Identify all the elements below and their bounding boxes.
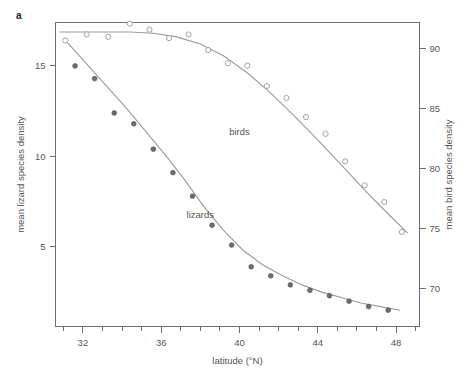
x-axis-tick-label: 32 [78, 337, 89, 348]
x-axis-tick-label: 48 [391, 337, 402, 348]
data-point-birds [106, 34, 111, 39]
data-point-lizards [386, 308, 391, 313]
data-point-lizards [73, 64, 78, 69]
data-point-birds [245, 63, 250, 68]
x-axis-tick-label: 44 [312, 337, 323, 348]
x-axis-tick-label: 36 [156, 337, 167, 348]
y2-axis-tick-label: 70 [430, 283, 441, 294]
data-point-lizards [190, 194, 195, 199]
data-point-lizards [249, 264, 254, 269]
data-point-lizards [210, 223, 215, 228]
data-point-lizards [327, 293, 332, 298]
y2-axis-tick-label: 90 [430, 43, 441, 54]
data-point-lizards [347, 299, 352, 304]
data-point-birds [303, 114, 308, 119]
figure-panel-a: a 3236404448latitude (°N)51015mean lizar… [0, 0, 474, 383]
data-point-birds [166, 35, 171, 40]
data-point-lizards [92, 76, 97, 81]
data-point-lizards [268, 273, 273, 278]
data-point-lizards [229, 243, 234, 248]
data-point-birds [382, 199, 387, 204]
x-axis-tick-label: 40 [234, 337, 245, 348]
y2-axis-tick-label: 75 [430, 223, 441, 234]
y-axis-tick-label: 5 [40, 241, 45, 252]
scatter-plot: 3236404448latitude (°N)51015mean lizard … [0, 0, 474, 383]
data-point-lizards [308, 288, 313, 293]
data-point-lizards [288, 282, 293, 287]
series-annotation-birds: birds [229, 126, 250, 137]
data-point-lizards [151, 147, 156, 152]
data-point-birds [264, 83, 269, 88]
y-axis-tick-label: 15 [35, 60, 46, 71]
data-point-birds [186, 32, 191, 37]
data-point-birds [127, 21, 132, 26]
y2-axis-tick-label: 80 [430, 163, 441, 174]
data-point-birds [323, 131, 328, 136]
data-point-birds [399, 229, 404, 234]
data-point-birds [84, 32, 89, 37]
data-point-lizards [171, 170, 176, 175]
fit-line-lizards [67, 42, 400, 310]
data-point-birds [63, 38, 68, 43]
data-point-birds [225, 61, 230, 66]
plot-frame [56, 23, 420, 327]
data-point-lizards [112, 111, 117, 116]
x-axis-title: latitude (°N) [212, 355, 262, 366]
data-point-birds [206, 47, 211, 52]
y-axis-title: mean lizard species density [15, 116, 26, 233]
data-point-birds [343, 159, 348, 164]
panel-label: a [16, 10, 22, 21]
series-annotation-lizards: lizards [187, 209, 215, 220]
data-point-birds [362, 183, 367, 188]
data-point-lizards [366, 304, 371, 309]
data-point-lizards [131, 121, 136, 126]
data-point-birds [147, 27, 152, 32]
y2-axis-tick-label: 85 [430, 103, 441, 114]
data-point-birds [284, 95, 289, 100]
y2-axis-title: mean bird species density [443, 119, 454, 229]
y-axis-tick-label: 10 [35, 151, 46, 162]
